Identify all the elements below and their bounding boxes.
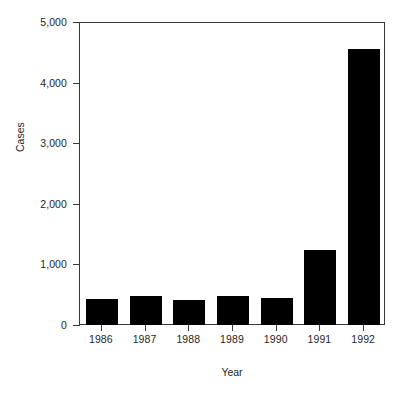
bar-1989 bbox=[217, 296, 249, 325]
y-tick-0 bbox=[73, 325, 80, 326]
bar-1988 bbox=[173, 300, 205, 325]
y-tick-3000 bbox=[73, 143, 80, 144]
bar-chart: 01,0002,0003,0004,0005,000 1986198719881… bbox=[0, 0, 407, 398]
y-tick-label-5000: 5,000 bbox=[0, 17, 67, 28]
bar-1992 bbox=[348, 49, 380, 325]
bar-1987 bbox=[130, 296, 162, 325]
x-tick-1991 bbox=[319, 325, 320, 331]
y-tick-label-2000: 2,000 bbox=[0, 199, 67, 210]
y-tick-5000 bbox=[73, 22, 80, 23]
x-axis-title: Year bbox=[79, 366, 385, 378]
bar-1991 bbox=[304, 250, 336, 325]
y-tick-label-4000: 4,000 bbox=[0, 78, 67, 89]
bars-layer bbox=[79, 22, 385, 325]
x-tick-1987 bbox=[145, 325, 146, 331]
x-tick-1989 bbox=[232, 325, 233, 331]
y-axis-title: Cases bbox=[14, 122, 26, 152]
x-tick-label-1992: 1992 bbox=[333, 334, 393, 345]
x-tick-1986 bbox=[101, 325, 102, 331]
y-tick-2000 bbox=[73, 204, 80, 205]
y-tick-1000 bbox=[73, 264, 80, 265]
x-tick-1988 bbox=[188, 325, 189, 331]
x-tick-1990 bbox=[276, 325, 277, 331]
x-tick-1992 bbox=[363, 325, 364, 331]
y-tick-label-3000: 3,000 bbox=[0, 138, 67, 149]
y-tick-4000 bbox=[73, 83, 80, 84]
bar-1990 bbox=[261, 298, 293, 325]
y-tick-label-0: 0 bbox=[0, 320, 67, 331]
y-tick-label-1000: 1,000 bbox=[0, 259, 67, 270]
bar-1986 bbox=[86, 299, 118, 325]
